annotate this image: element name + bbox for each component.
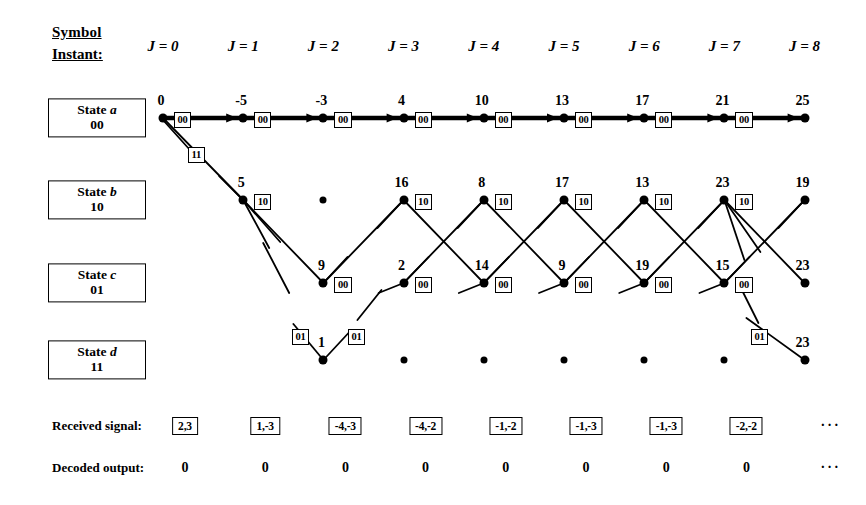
branch-code-state_a-j6: 00 — [655, 112, 672, 128]
branch-code-state_c-j7: 00 — [735, 277, 752, 293]
node-state_b-j3 — [399, 196, 408, 205]
decoded-output-4: 0 — [502, 460, 509, 476]
branch-stub-in-b7 — [698, 200, 724, 228]
node-state_a-j3 — [399, 114, 408, 123]
decoded-output-5: 0 — [583, 460, 590, 476]
branch-code-extra-3: 01 — [751, 329, 768, 345]
node-state_c-j5 — [560, 279, 569, 288]
metric-state_b-j5: 17 — [555, 175, 569, 191]
metric-state_a-j7: 21 — [715, 93, 729, 109]
branch-code-state_b-j4: 10 — [495, 194, 512, 210]
node-state_d-j8 — [800, 356, 809, 365]
node-state_d-j6-empty — [641, 357, 648, 364]
branch-code-state_c-j2: 00 — [334, 277, 351, 293]
decoded-output-2: 0 — [342, 460, 349, 476]
node-state_b-j4 — [479, 196, 488, 205]
node-state_a-j2 — [319, 114, 328, 123]
metric-state_a-j6: 17 — [635, 93, 649, 109]
node-state_c-j6 — [640, 279, 649, 288]
node-state_c-j7 — [720, 279, 729, 288]
branch-code-state_a-j7: 00 — [735, 112, 752, 128]
node-state_d-j3-empty — [400, 357, 407, 364]
node-state_d-j4-empty — [480, 357, 487, 364]
received-signal-6: -1,-3 — [650, 417, 683, 435]
node-state_a-j8 — [800, 114, 809, 123]
trellis-diagram: Symbol Instant: J = 0J = 1J = 2J = 3J = … — [0, 0, 866, 505]
metric-state_c-j3: 2 — [398, 258, 405, 274]
branch-code-state_a-j4: 00 — [495, 112, 512, 128]
branch-code-state_a-j0: 00 — [174, 112, 191, 128]
decoded-output-7: 0 — [743, 460, 750, 476]
metric-state_a-j5: 13 — [555, 93, 569, 109]
metric-state_b-j6: 13 — [635, 175, 649, 191]
received-signal-0: 2,3 — [172, 417, 198, 435]
node-state_b-j1 — [239, 196, 248, 205]
node-state_b-j7 — [720, 196, 729, 205]
node-state_b-j6 — [640, 196, 649, 205]
node-state_b-j8 — [800, 196, 809, 205]
branch-code-state_c-j6: 00 — [655, 277, 672, 293]
branch-code-state_a-j5: 00 — [575, 112, 592, 128]
metric-state_c-j7: 15 — [715, 258, 729, 274]
metric-state_d-j2: 1 — [318, 335, 325, 351]
node-state_a-j6 — [640, 114, 649, 123]
node-state_c-j2 — [319, 279, 328, 288]
received-signal-5: -1,-3 — [569, 417, 602, 435]
metric-state_b-j7: 23 — [715, 175, 729, 191]
received-signal-3: -4,-2 — [409, 417, 442, 435]
survivor-arrow-3 — [387, 113, 398, 122]
branch-code-state_b-j5: 10 — [575, 194, 592, 210]
node-state_a-j4 — [479, 114, 488, 123]
metric-state_a-j8: 25 — [796, 93, 810, 109]
survivor-arrow-6 — [627, 113, 638, 122]
survivor-arrow-4 — [467, 113, 478, 122]
branch-code-state_c-j3: 00 — [415, 277, 432, 293]
metric-state_b-j8: 19 — [796, 175, 810, 191]
decoded-output-0: 0 — [182, 460, 189, 476]
branch-code-state_a-j3: 00 — [415, 112, 432, 128]
branch-out-d2-right — [323, 332, 349, 360]
branch-code-state_c-j5: 00 — [575, 277, 592, 293]
metric-state_c-j6: 19 — [635, 258, 649, 274]
received-signal-1: 1,-3 — [250, 417, 279, 435]
metric-state_a-j1: -5 — [235, 93, 247, 109]
decoded-output-label: Decoded output: — [52, 460, 144, 476]
metric-state_b-j1: 5 — [238, 175, 245, 191]
decoded-output-3: 0 — [422, 460, 429, 476]
survivor-arrow-5 — [547, 113, 558, 122]
branch-stub-in-b5 — [538, 200, 564, 228]
branch-code-state_b-j3: 10 — [415, 194, 432, 210]
metric-state_a-j0: 0 — [158, 93, 165, 109]
node-state_a-j5 — [560, 114, 569, 123]
branch-code-state_c-j4: 00 — [495, 277, 512, 293]
branch-stub-in-b3 — [378, 200, 404, 228]
node-state_b-j5 — [560, 196, 569, 205]
branch-code-extra-1: 01 — [292, 329, 309, 345]
branch-stub-c2-left — [263, 243, 289, 293]
branch-code-state_a-j2: 00 — [334, 112, 351, 128]
received-signal-7: -2,-2 — [730, 417, 763, 435]
branch-stub-in-b4 — [458, 200, 484, 228]
node-state_a-j0 — [159, 114, 168, 123]
branch-code-extra-2: 01 — [348, 329, 365, 345]
node-state_c-j8 — [800, 279, 809, 288]
metric-state_c-j5: 9 — [559, 258, 566, 274]
metric-state_a-j3: 4 — [398, 93, 405, 109]
branch-code-state_b-j1: 10 — [254, 194, 271, 210]
metric-state_b-j3: 16 — [395, 175, 409, 191]
decoded-output-1: 0 — [262, 460, 269, 476]
branch-stub-in-b8 — [779, 200, 805, 228]
node-state_d-j7-empty — [721, 357, 728, 364]
metric-state_c-j2: 9 — [318, 258, 325, 274]
decoded-output-ellipsis: ··· — [821, 460, 841, 476]
received-signal-ellipsis: ··· — [821, 418, 841, 434]
metric-state_c-j4: 14 — [475, 258, 489, 274]
node-state_a-j7 — [720, 114, 729, 123]
received-signal-4: -1,-2 — [489, 417, 522, 435]
survivor-arrow-8 — [788, 113, 799, 122]
node-state_c-j4 — [479, 279, 488, 288]
received-signal-2: -4,-3 — [329, 417, 362, 435]
node-state_d-j2 — [319, 356, 328, 365]
survivor-arrow-1 — [226, 113, 237, 122]
branch-stub-in-b6 — [618, 200, 644, 228]
